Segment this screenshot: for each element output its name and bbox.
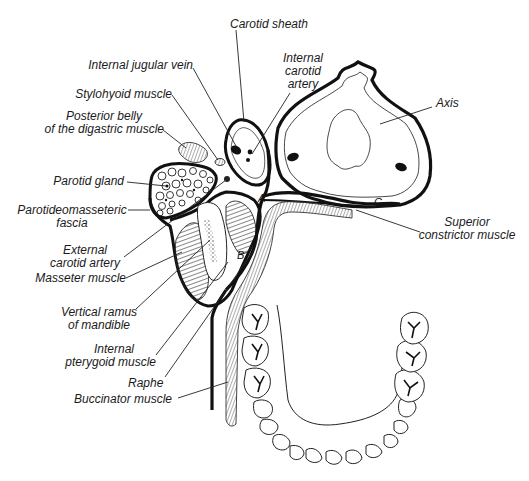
label-superior-constrictor: Superior constrictor muscle	[412, 216, 522, 242]
pharyngeal-lines	[212, 150, 400, 410]
vertebral-foramen-left-icon	[286, 151, 300, 163]
teeth	[242, 305, 428, 465]
label-stylohyoid-muscle: Stylohyoid muscle	[72, 88, 172, 101]
label-internal-pterygoid: Internal pterygoid muscle	[56, 343, 156, 369]
stylohyoid-muscle	[215, 159, 225, 166]
label-masseter-muscle: Masseter muscle	[20, 272, 126, 285]
label-axis: Axis	[436, 97, 459, 110]
point-letter-b: B	[237, 249, 244, 261]
point-letter-a: A	[258, 192, 265, 204]
label-internal-jugular-vein: Internal jugular vein	[86, 59, 193, 72]
label-external-carotid-artery: External carotid artery	[40, 244, 130, 270]
carotid-sheath	[225, 120, 270, 185]
label-buccinator-muscle: Buccinator muscle	[74, 393, 172, 406]
label-parotideomasseteric-fascia: Parotideomasseteric fascia	[14, 204, 130, 230]
label-posterior-belly-digastric: Posterior belly of the digastric muscle	[36, 110, 164, 136]
point-letter-c: C	[374, 196, 382, 208]
label-carotid-sheath: Carotid sheath	[230, 18, 308, 31]
vertebral-foramen-right-icon	[394, 161, 408, 173]
label-raphe: Raphe	[128, 377, 163, 390]
label-vertical-ramus: Vertical ramus of mandible	[54, 306, 144, 332]
label-parotid-gland: Parotid gland	[24, 175, 124, 188]
label-internal-carotid-artery: Internal carotid artery	[278, 52, 328, 91]
internal-pterygoid-muscle	[226, 201, 256, 254]
